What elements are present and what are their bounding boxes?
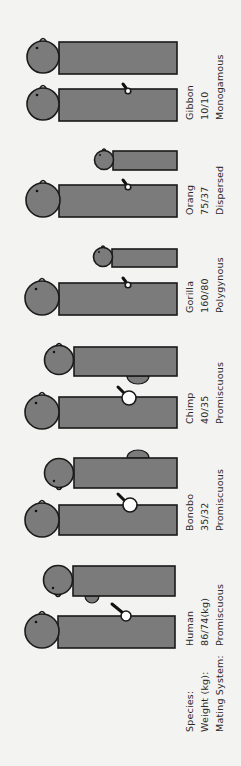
mating-human: Promiscuous (215, 584, 225, 646)
bonobo-male-figure (25, 494, 177, 537)
mating-gibbon: Monogamous (215, 54, 225, 120)
weight-gorilla: 160/80 (200, 278, 210, 313)
chimp-female-figure (45, 344, 178, 385)
human-male-figure (25, 604, 175, 648)
chimp-male-figure (25, 387, 177, 429)
weight-human: 86/74(kg) (200, 598, 210, 646)
mating-gorilla: Polygynous (215, 257, 225, 313)
species-name-bonobo: Bonobo (185, 494, 195, 531)
weight-row-label: Weight (kg): (200, 671, 210, 732)
orang-female-figure (95, 149, 178, 170)
human-female-figure (44, 566, 176, 604)
weight-gibbon: 10/10 (200, 92, 210, 120)
mating-bonobo: Promiscuous (215, 469, 225, 531)
species-name-human: Human (185, 611, 195, 646)
species-name-orang: Orang (185, 185, 195, 215)
species-name-gibbon: Gibbon (185, 85, 195, 120)
mating-chimp: Promiscuous (215, 362, 225, 424)
bonobo-female-figure (45, 450, 178, 490)
gibbon-male-figure (27, 84, 177, 121)
gorilla-female-figure (94, 246, 178, 267)
gibbon-female-figure (27, 39, 177, 75)
weight-bonobo: 35/32 (200, 503, 210, 531)
orang-male-figure (26, 180, 177, 217)
mating-row-label: Mating System: (215, 655, 225, 732)
weight-orang: 75/37 (200, 187, 210, 215)
species-row-label: Species: (185, 691, 195, 732)
gorilla-male-figure (25, 278, 177, 315)
mating-orang: Dispersed (215, 166, 225, 215)
species-name-chimp: Chimp (185, 392, 195, 424)
species-name-gorilla: Gorilla (185, 281, 195, 313)
weight-chimp: 40/35 (200, 396, 210, 424)
